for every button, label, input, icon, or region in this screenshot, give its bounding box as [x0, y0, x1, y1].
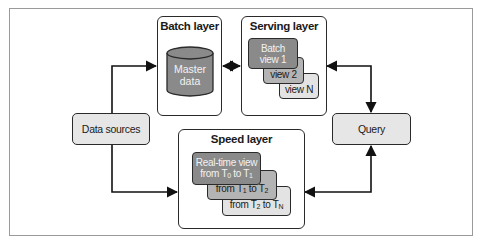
master-data-line2: data	[180, 75, 201, 87]
batch-layer-title: Batch layer	[158, 20, 221, 32]
database-cylinder-icon: Master data	[166, 46, 214, 98]
data-sources-node: Data sources	[72, 113, 150, 145]
speed-layer-title: Speed layer	[179, 133, 304, 145]
batch-view-1-card: Batch view 1	[248, 38, 298, 69]
batch-layer: Batch layer Master data	[157, 16, 222, 116]
query-node: Query	[332, 113, 411, 145]
realtime-view-card: Real-time view from T0 to T1	[192, 152, 261, 185]
master-data-line1: Master	[174, 63, 207, 75]
data-sources-label: Data sources	[82, 123, 140, 135]
speed-layer: Speed layer from T2 to TN from T1 to T2 …	[178, 129, 305, 229]
query-label: Query	[358, 123, 385, 135]
serving-layer-title: Serving layer	[242, 20, 326, 32]
serving-layer: Serving layer view N view 2 Batch view 1	[241, 16, 327, 116]
